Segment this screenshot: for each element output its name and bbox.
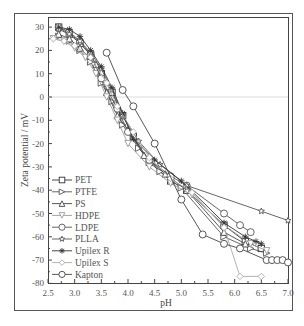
y-tick-label: -80 <box>32 278 44 288</box>
y-tick-label: -50 <box>32 209 44 219</box>
legend-item: LDPE <box>52 223 99 233</box>
legend-item: Kapton <box>52 270 103 280</box>
axis-ticks: 3020100-10-20-30-40-50-60-70-802.53.03.5… <box>32 22 294 298</box>
legend-item: PS <box>52 199 86 209</box>
y-tick-label: -20 <box>32 139 44 149</box>
y-tick-label: -60 <box>32 232 44 242</box>
x-tick-label: 6.5 <box>256 288 268 298</box>
x-tick-label: 3.5 <box>96 288 108 298</box>
x-tick-label: 4.5 <box>149 288 161 298</box>
legend-item: PLLA <box>52 234 99 244</box>
y-tick-label: -10 <box>32 115 44 125</box>
legend-label: Upilex R <box>75 246 110 256</box>
x-tick-label: 4.0 <box>122 288 134 298</box>
legend-label: PTFE <box>75 187 97 197</box>
series-kapton <box>103 49 291 266</box>
y-axis-title: Zeta potential / mV <box>20 113 30 187</box>
legend-item: Upilex R <box>52 246 110 256</box>
legend-item: PET <box>52 175 92 185</box>
y-tick-label: 10 <box>35 69 45 79</box>
legend-label: Kapton <box>75 270 103 280</box>
y-tick-label: -70 <box>32 255 44 265</box>
y-tick-label: 20 <box>35 45 45 55</box>
y-tick-label: -30 <box>32 162 44 172</box>
x-tick-label: 5.0 <box>176 288 188 298</box>
x-tick-label: 5.5 <box>202 288 214 298</box>
legend-label: PLLA <box>75 234 99 244</box>
x-tick-label: 2.5 <box>42 288 54 298</box>
legend-label: HDPE <box>75 211 100 221</box>
legend-label: LDPE <box>75 223 99 233</box>
y-tick-label: 0 <box>40 92 45 102</box>
y-tick-label: 30 <box>35 22 45 32</box>
legend-item: HDPE <box>52 211 100 221</box>
x-axis-title: pH <box>160 298 172 308</box>
x-tick-label: 3.0 <box>69 288 81 298</box>
legend: PETPTFEPSHDPELDPEPLLAUpilex RUpilex SKap… <box>52 175 110 279</box>
legend-label: Upilex S <box>75 258 109 268</box>
legend-label: PS <box>75 199 86 209</box>
legend-item: PTFE <box>52 187 97 197</box>
y-tick-label: -40 <box>32 185 44 195</box>
legend-label: PET <box>75 175 92 185</box>
legend-item: Upilex S <box>52 258 109 268</box>
zeta-potential-chart: 3020100-10-20-30-40-50-60-70-802.53.03.5… <box>0 0 304 326</box>
x-tick-label: 6.0 <box>229 288 241 298</box>
x-tick-label: 7.0 <box>282 288 294 298</box>
series-hdpe <box>50 36 270 254</box>
